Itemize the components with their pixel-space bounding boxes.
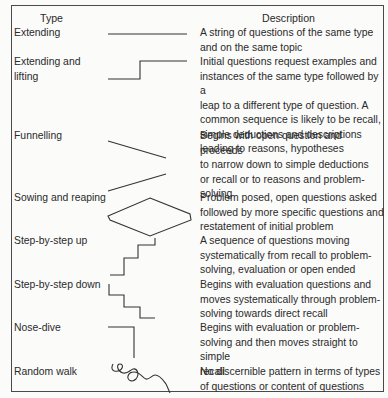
staircase-up-icon bbox=[110, 238, 155, 275]
diamond-icon bbox=[108, 198, 191, 236]
staircase-down-icon bbox=[109, 284, 155, 318]
pattern-diagrams bbox=[0, 0, 388, 398]
squiggle-icon bbox=[112, 364, 170, 393]
funnel-lines-icon bbox=[108, 141, 166, 191]
step-up-line-icon bbox=[108, 61, 187, 79]
nose-dive-icon bbox=[108, 327, 134, 358]
